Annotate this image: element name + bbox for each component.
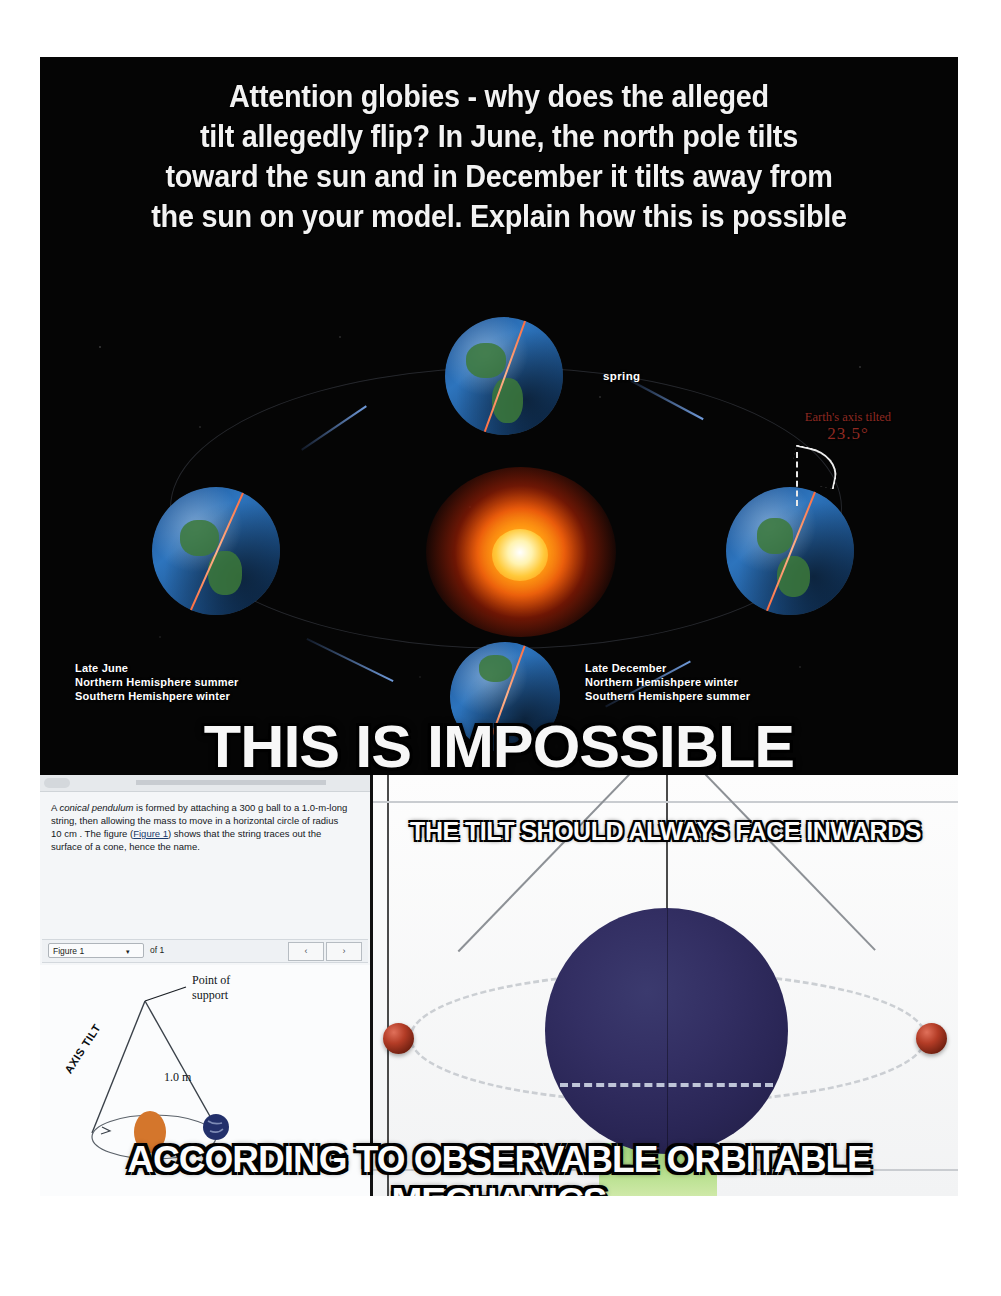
late-december-line-1: Late December xyxy=(585,661,750,675)
problem-term-conical-pendulum: conical pendulum xyxy=(59,802,133,813)
globe-seam xyxy=(667,908,668,1154)
globe-model xyxy=(545,908,788,1154)
toolbar-controls xyxy=(44,778,70,788)
textbook-screenshot: A conical pendulum is formed by attachin… xyxy=(40,775,373,1196)
chevron-down-icon: ▾ xyxy=(126,944,130,959)
landmass xyxy=(777,556,810,597)
bottom-panel: A conical pendulum is formed by attachin… xyxy=(40,775,958,1196)
earth-late-june xyxy=(152,487,280,615)
late-june-line-2: Northern Hemisphere summer xyxy=(75,675,239,689)
point-of-support-label: Point ofsupport xyxy=(192,973,230,1003)
late-june-label: Late June Northern Hemisphere summer Sou… xyxy=(75,661,239,703)
earth-late-december xyxy=(726,487,854,615)
string-length-label: 1.0 m xyxy=(164,1070,191,1085)
spring-label: spring xyxy=(603,370,641,382)
axis-tilt-note: Earth's axis tilted 23.5° xyxy=(763,409,933,442)
address-bar[interactable] xyxy=(136,780,326,785)
axis-tilt-degrees: 23.5° xyxy=(763,426,933,442)
figure-toolbar: Figure 1 ▾ of 1 ‹ › xyxy=(42,939,368,963)
pendulum-photo: THE TILT SHOULD ALWAYS FACE INWARDS xyxy=(373,775,958,1196)
sun-icon xyxy=(492,529,548,581)
landmass xyxy=(466,343,506,378)
impossible-caption: THIS IS IMPOSSIBLE xyxy=(40,712,958,775)
pendulum-ball-left xyxy=(383,1023,414,1054)
headline-text: Attention globies - why does the alleged… xyxy=(72,77,926,237)
tilt-caption: THE TILT SHOULD ALWAYS FACE INWARDS xyxy=(373,817,958,846)
seasons-diagram: spring xyxy=(40,307,958,717)
earth-spring xyxy=(445,317,563,435)
axis-tilt-note-text: Earth's axis tilted xyxy=(805,410,891,424)
wall-line-top xyxy=(373,801,958,803)
figure-selector[interactable]: Figure 1 ▾ xyxy=(48,943,144,958)
top-panel: Attention globies - why does the alleged… xyxy=(40,57,958,775)
late-june-line-3: Southern Hemishpere winter xyxy=(75,689,239,703)
late-december-line-3: Southern Hemishpere summer xyxy=(585,689,750,703)
globe-equator-dashed xyxy=(560,1083,774,1087)
headline-line-3: toward the sun and in December it tilts … xyxy=(72,157,926,197)
late-june-line-1: Late June xyxy=(75,661,239,675)
figure-link[interactable]: Figure 1 xyxy=(133,828,168,839)
pendulum-ball-right xyxy=(916,1023,947,1054)
previous-figure-button[interactable]: ‹ xyxy=(288,942,324,961)
landmass xyxy=(180,520,218,556)
headline-line-1: Attention globies - why does the alleged xyxy=(72,77,926,117)
headline-line-4: the sun on your model. Explain how this … xyxy=(72,197,926,237)
meme-image: Attention globies - why does the alleged… xyxy=(40,57,958,1196)
late-december-line-2: Northern Hemishpere winter xyxy=(585,675,750,689)
browser-toolbar xyxy=(40,775,370,792)
landmass xyxy=(757,518,793,554)
late-december-label: Late December Northern Hemishpere winter… xyxy=(585,661,750,703)
next-figure-button[interactable]: › xyxy=(326,942,362,961)
problem-statement: A conical pendulum is formed by attachin… xyxy=(51,801,351,853)
figure-count-label: of 1 xyxy=(150,943,164,958)
landmass xyxy=(479,655,512,681)
mechanics-caption: ACCORDING TO OBSERVABLE ORBITABLE MECHAN… xyxy=(40,1139,958,1196)
figure-selector-value: Figure 1 xyxy=(53,946,84,956)
headline-line-2: tilt allegedly flip? In June, the north … xyxy=(72,117,926,157)
